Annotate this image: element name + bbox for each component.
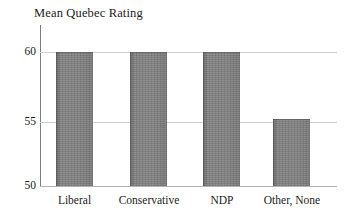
x-label-other-none: Other, None (252, 194, 332, 206)
y-tick-label-55: 55 (10, 115, 36, 127)
chart-title: Mean Quebec Rating (34, 6, 143, 21)
bar-liberal (56, 52, 93, 186)
bar-other-none (273, 119, 310, 186)
y-tick-label-50: 50 (10, 179, 36, 191)
bar-ndp (203, 52, 240, 186)
x-label-conservative: Conservative (103, 194, 195, 206)
x-label-ndp: NDP (192, 194, 252, 206)
y-axis-line (40, 25, 41, 187)
gridline-50-baseline (40, 186, 337, 187)
y-axis-tick-labels: 60 55 50 (8, 0, 36, 223)
scan-texture-overlay (0, 0, 347, 223)
bar-conservative (130, 52, 167, 186)
x-label-liberal: Liberal (44, 194, 105, 206)
y-tick-label-60: 60 (10, 45, 36, 57)
bar-chart-figure: Mean Quebec Rating 60 55 50 Liberal Cons… (0, 0, 347, 223)
